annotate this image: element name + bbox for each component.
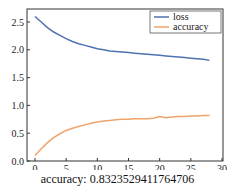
accuracy-caption: accuracy: 0.8323529411764706: [0, 172, 235, 187]
accuracy-line: [35, 115, 210, 155]
y-tick-label: 1.5: [12, 72, 25, 83]
legend-accuracy-label: accuracy: [173, 21, 209, 32]
x-tick-label: 15: [124, 163, 134, 170]
x-tick-label: 20: [155, 163, 165, 170]
y-tick-label: 2.5: [12, 17, 25, 28]
y-tick-label: 2.0: [12, 44, 25, 55]
x-tick-label: 5: [64, 163, 69, 170]
x-axis-ticks: 051015202530: [33, 158, 228, 170]
y-tick-label: 0.0: [12, 156, 25, 167]
legend: loss accuracy: [150, 11, 221, 33]
x-tick-label: 10: [92, 163, 102, 170]
y-tick-label: 1.0: [12, 100, 25, 111]
x-tick-label: 25: [186, 163, 196, 170]
line-chart: 0.00.51.01.52.02.5 051015202530 loss acc…: [0, 0, 235, 170]
y-tick-label: 0.5: [12, 128, 25, 139]
x-tick-label: 0: [33, 163, 38, 170]
x-tick-label: 30: [217, 163, 227, 170]
